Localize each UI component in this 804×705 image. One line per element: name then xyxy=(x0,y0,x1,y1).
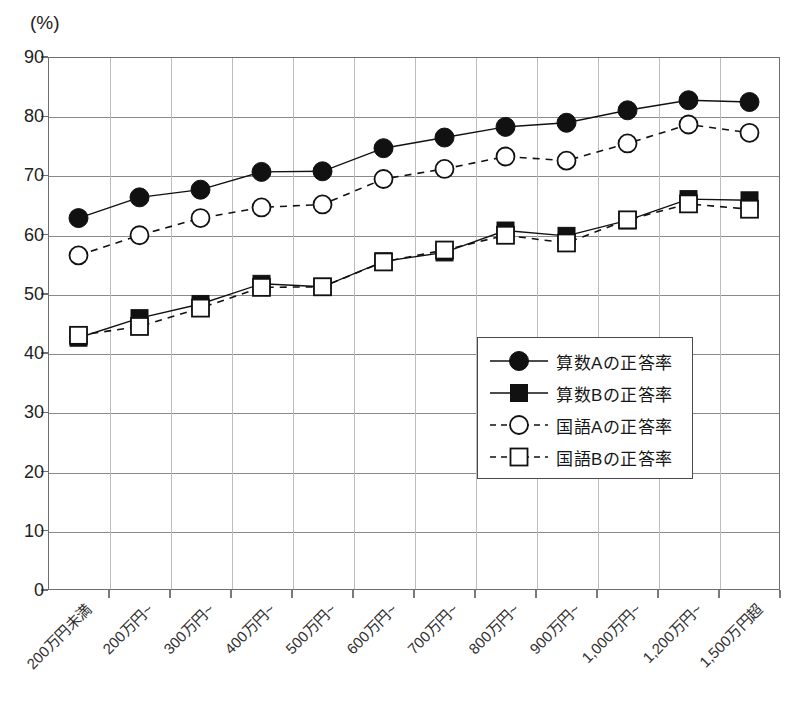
legend-item: 国語Bの正答率 xyxy=(478,441,692,473)
series-line-filled-square xyxy=(79,199,750,338)
legend: 算数Aの正答率算数Bの正答率国語Aの正答率国語Bの正答率 xyxy=(477,337,693,479)
series-line-open-circle xyxy=(79,125,750,256)
legend-swatch-open-circle-icon xyxy=(488,414,550,436)
series-line-filled-circle xyxy=(79,100,750,218)
legend-item: 算数Aの正答率 xyxy=(478,345,692,377)
series-markers-open-circle xyxy=(70,116,759,265)
series-markers-filled-circle xyxy=(69,91,759,228)
legend-label: 国語Aの正答率 xyxy=(556,413,673,438)
series-markers-filled-square xyxy=(70,191,758,347)
legend-item: 算数Bの正答率 xyxy=(478,377,692,409)
chart-container: (%) 0102030405060708090 200万円未満200万円~300… xyxy=(0,0,804,705)
series-markers-open-square xyxy=(70,195,758,343)
legend-label: 算数Aの正答率 xyxy=(556,349,673,374)
legend-label: 国語Bの正答率 xyxy=(556,445,673,470)
legend-swatch-open-square-icon xyxy=(488,446,550,468)
legend-item: 国語Aの正答率 xyxy=(478,409,692,441)
legend-label: 算数Bの正答率 xyxy=(556,381,673,406)
legend-swatch-filled-square-icon xyxy=(488,382,550,404)
legend-swatch-filled-circle-icon xyxy=(488,350,550,372)
